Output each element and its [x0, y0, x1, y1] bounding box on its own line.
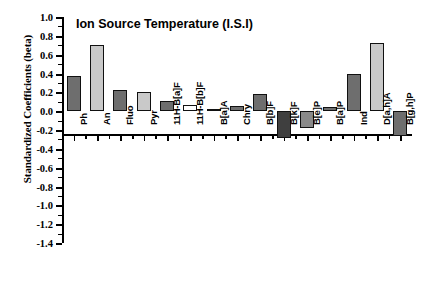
y-tick-minor	[58, 215, 62, 216]
y-axis-title: Standardized Coefficients (beta)	[21, 24, 33, 194]
y-tick	[56, 187, 62, 189]
x-tick	[330, 134, 332, 141]
y-tick-minor	[58, 45, 62, 46]
y-tick-minor	[58, 177, 62, 178]
y-tick	[56, 205, 62, 207]
chart-title: Ion Source Temperature (I.S.I)	[76, 17, 253, 31]
x-tick-minor	[365, 134, 367, 139]
x-axis-label: 11H-B[b]F	[194, 82, 205, 125]
x-tick	[237, 134, 239, 141]
x-tick-minor	[342, 134, 344, 139]
y-tick	[56, 149, 62, 151]
x-tick	[167, 134, 169, 141]
x-tick-minor	[132, 134, 134, 139]
x-tick	[74, 134, 76, 141]
x-axis-label: 11H-B[a]F	[171, 83, 182, 126]
x-axis-label: B[k]F	[288, 102, 299, 125]
x-axis-label: Pyr	[148, 110, 159, 125]
y-tick	[56, 130, 62, 132]
y-tick	[56, 36, 62, 38]
y-tick-minor	[58, 196, 62, 197]
y-tick	[56, 92, 62, 94]
y-tick-minor	[58, 139, 62, 140]
x-tick-minor	[85, 134, 87, 139]
y-tick-label: -1.4	[36, 238, 53, 249]
x-tick-minor	[295, 134, 297, 139]
y-tick-minor	[58, 158, 62, 159]
x-tick-minor	[249, 134, 251, 139]
x-axis-label: D[a,h]A	[381, 93, 392, 125]
x-tick	[377, 134, 379, 141]
y-tick-label: -0.8	[36, 181, 53, 192]
y-tick	[56, 168, 62, 170]
x-tick	[260, 134, 262, 141]
bar	[90, 45, 104, 111]
x-tick	[144, 134, 146, 141]
x-tick	[307, 134, 309, 141]
x-tick-minor	[319, 134, 321, 139]
x-tick	[354, 134, 356, 141]
y-tick-label: 0.0	[40, 106, 53, 117]
x-axis-label: An	[101, 113, 112, 125]
y-tick	[56, 243, 62, 245]
y-tick	[56, 55, 62, 57]
y-tick-label: 1.0	[40, 12, 53, 23]
x-axis-label: B[b]F	[264, 101, 275, 125]
x-tick	[97, 134, 99, 141]
y-tick-label: -1.2	[36, 219, 53, 230]
x-axis-label: Chry	[241, 104, 252, 125]
y-tick-minor	[58, 26, 62, 27]
y-axis-line	[62, 17, 64, 243]
y-tick	[56, 111, 62, 113]
x-axis-label: B[g,h]P	[404, 93, 415, 125]
x-tick-minor	[62, 134, 64, 139]
y-tick-minor	[58, 121, 62, 122]
y-tick-label: 0.6	[40, 49, 53, 60]
bar-chart: Standardized Coefficients (beta) Ion Sou…	[0, 0, 427, 301]
x-tick-minor	[389, 134, 391, 139]
x-tick	[214, 134, 216, 141]
bar	[347, 74, 361, 111]
y-tick-label: 0.8	[40, 30, 53, 41]
x-axis-label: B[a]P	[334, 101, 345, 125]
x-axis-label: B[e]P	[311, 101, 322, 125]
x-tick-minor	[155, 134, 157, 139]
bar	[137, 92, 151, 111]
x-tick-minor	[272, 134, 274, 139]
y-tick	[56, 74, 62, 76]
x-tick	[120, 134, 122, 141]
x-axis-label: B[a]A	[218, 101, 229, 125]
x-axis-label: Ind	[358, 112, 369, 126]
x-axis-label: Ph	[78, 113, 89, 125]
x-tick-minor	[202, 134, 204, 139]
y-tick-label: -0.4	[36, 143, 53, 154]
x-tick-minor	[109, 134, 111, 139]
y-tick-minor	[58, 64, 62, 65]
y-tick	[56, 17, 62, 19]
y-tick-label: 0.4	[40, 68, 53, 79]
y-tick-label: -0.6	[36, 162, 53, 173]
y-tick	[56, 224, 62, 226]
x-tick-minor	[225, 134, 227, 139]
bar	[67, 76, 81, 111]
y-tick-minor	[58, 234, 62, 235]
x-tick	[190, 134, 192, 141]
y-tick-minor	[58, 83, 62, 84]
y-tick-label: 0.2	[40, 87, 53, 98]
y-tick-label: -1.0	[36, 200, 53, 211]
plot-area: Ion Source Temperature (I.S.I) 1.00.80.6…	[62, 17, 412, 243]
x-tick-minor	[179, 134, 181, 139]
x-axis-label: Fluo	[124, 106, 135, 125]
y-tick-minor	[58, 102, 62, 103]
y-tick-label: -0.2	[36, 125, 53, 136]
